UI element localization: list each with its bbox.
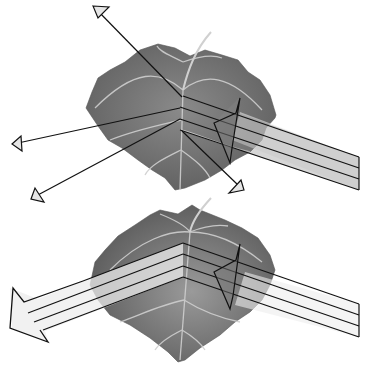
top-leaf (86, 32, 276, 190)
arrowhead-down-left (31, 188, 44, 202)
arrowhead-up-left (93, 6, 109, 18)
top-panel-diffuse (12, 6, 359, 202)
bottom-panel-specular (10, 198, 359, 362)
reflection-diagram (0, 0, 368, 373)
arrowhead-left (12, 136, 22, 151)
arrowhead-down-right (229, 180, 244, 193)
